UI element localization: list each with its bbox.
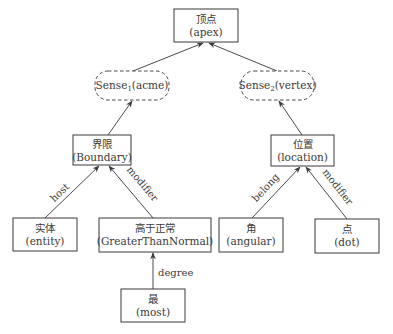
node-angular-en: (angular) — [226, 235, 275, 247]
node-boundary-en: (Boundary) — [72, 151, 132, 163]
edge-location-to-sense2 — [279, 101, 302, 135]
edge-label-modifier-left: modifier — [125, 164, 161, 204]
edge-sense1-to-apex — [133, 43, 203, 71]
node-dot: 点 (dot) — [315, 219, 379, 253]
node-sense2: Sense2(vertex) — [239, 71, 317, 100]
node-apex-en: (apex) — [189, 26, 222, 38]
node-angular: 角 (angular) — [219, 218, 283, 252]
edge-label-modifier-right: modifier — [320, 167, 355, 207]
node-greater-than-normal: 高于正常 (GreaterThanNormal) — [97, 218, 213, 252]
node-sense1-label: Sense1(acme) — [96, 79, 169, 93]
node-boundary: 界限 (Boundary) — [72, 135, 132, 165]
edge-boundary-to-sense1 — [108, 101, 132, 135]
node-gtn-cn: 高于正常 — [135, 222, 175, 234]
node-most-en: (most) — [136, 306, 170, 318]
node-dot-cn: 点 — [342, 223, 352, 235]
node-sense2-label: Sense2(vertex) — [239, 79, 317, 93]
node-apex: 顶点 (apex) — [174, 9, 238, 42]
node-location-cn: 位置 — [293, 138, 313, 150]
edge-label-host: host — [48, 181, 71, 204]
node-most-cn: 最 — [148, 293, 159, 305]
node-dot-en: (dot) — [334, 236, 359, 248]
node-gtn-en: (GreaterThanNormal) — [97, 235, 213, 247]
node-most: 最 (most) — [121, 289, 185, 322]
node-location: 位置 (location) — [271, 135, 334, 166]
node-angular-cn: 角 — [246, 222, 256, 234]
node-apex-cn: 顶点 — [196, 13, 216, 25]
edge-sense2-to-apex — [209, 43, 277, 71]
node-location-en: (location) — [277, 151, 328, 163]
node-entity: 实体 (entity) — [13, 218, 77, 251]
node-entity-en: (entity) — [26, 235, 65, 247]
edge-label-belong: belong — [250, 171, 282, 204]
semantic-tree-diagram: host modifier belong modifier degree 顶点 … — [0, 0, 393, 334]
node-sense1: Sense1(acme) — [95, 71, 169, 100]
edge-label-degree: degree — [158, 267, 193, 278]
node-boundary-cn: 界限 — [92, 138, 113, 150]
node-entity-cn: 实体 — [35, 222, 56, 234]
